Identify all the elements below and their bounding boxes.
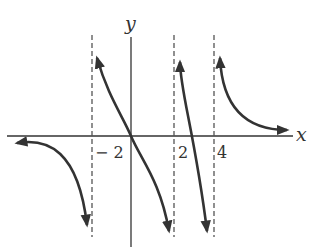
x-axis-label: x [296,123,307,145]
tick-label-2: 2 [178,143,188,162]
tick-label-neg2: − 2 [95,143,124,162]
tick-label-4: 4 [217,143,227,162]
curve-right-branch [220,58,287,130]
y-axis-label: y [124,12,136,34]
curve-left-branch [17,142,87,225]
function-graph: y x − 2 2 4 [0,0,309,247]
